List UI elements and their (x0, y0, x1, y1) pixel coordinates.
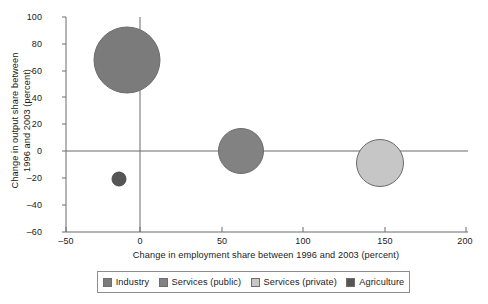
legend-item-agriculture[interactable]: Agriculture (346, 277, 404, 287)
legend-label-industry: Industry (116, 277, 149, 287)
legend-swatch-services-public (159, 278, 168, 287)
legend-swatch-services-private (251, 278, 260, 287)
legend-item-industry[interactable]: Industry (103, 277, 149, 287)
bubble-services-public[interactable] (219, 129, 264, 174)
bubble-chart: Change in output share between 1996 and … (0, 0, 488, 304)
legend-swatch-agriculture (346, 278, 355, 287)
bubble-agriculture[interactable] (112, 172, 126, 186)
legend-item-services-private[interactable]: Services (private) (251, 277, 337, 287)
y-axis-ticks (62, 17, 66, 232)
legend-label-agriculture: Agriculture (359, 277, 404, 287)
bubble-industry[interactable] (94, 27, 160, 93)
legend-label-services-public: Services (public) (172, 277, 242, 287)
legend-swatch-industry (103, 278, 112, 287)
legend-item-services-public[interactable]: Services (public) (159, 277, 242, 287)
chart-legend: Industry Services (public) Services (pri… (97, 271, 410, 293)
bubble-services-private[interactable] (357, 140, 404, 187)
x-axis-title: Change in employment share between 1996 … (60, 250, 472, 260)
legend-label-services-private: Services (private) (264, 277, 337, 287)
x-axis-ticks (66, 227, 466, 232)
